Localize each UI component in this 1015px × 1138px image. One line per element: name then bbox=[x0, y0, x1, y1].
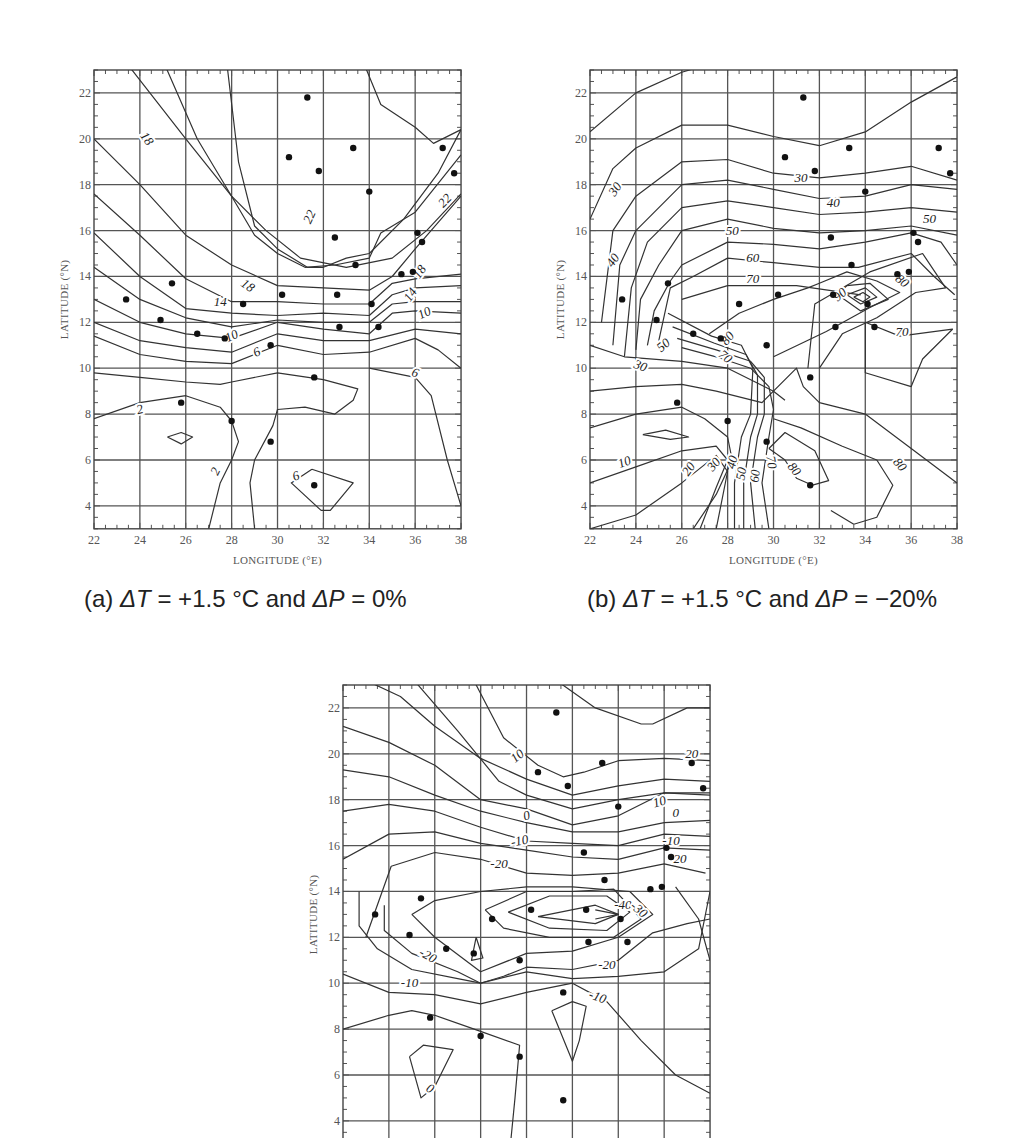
y-tick-label: 10 bbox=[328, 976, 340, 990]
station-dot bbox=[427, 1014, 433, 1020]
contour-label: 20 bbox=[685, 746, 699, 761]
contour-label: 0 bbox=[521, 807, 532, 823]
station-dot bbox=[668, 854, 674, 860]
station-dot bbox=[617, 916, 623, 922]
contour-line bbox=[552, 1002, 586, 1062]
station-dot bbox=[560, 1097, 566, 1103]
station-dot bbox=[516, 957, 522, 963]
station-dot bbox=[418, 895, 424, 901]
station-dot bbox=[647, 886, 653, 892]
station-dot bbox=[528, 907, 534, 913]
station-dot bbox=[477, 1033, 483, 1039]
contour-line bbox=[474, 680, 710, 776]
y-tick-label: 16 bbox=[328, 839, 340, 853]
station-dot bbox=[553, 709, 559, 715]
y-tick-label: 6 bbox=[334, 1068, 340, 1082]
station-dot bbox=[560, 989, 566, 995]
station-dot bbox=[624, 939, 630, 945]
station-dot bbox=[471, 950, 477, 956]
contour-label: 10 bbox=[507, 745, 527, 765]
contour-label: -10 bbox=[510, 832, 530, 850]
station-dot bbox=[372, 911, 378, 917]
y-axis-label: LATITUDE (°N) bbox=[307, 875, 320, 955]
panel-c: 46810121416182022LATITUDE (°N)10200100-1… bbox=[0, 0, 1015, 1138]
contour-label: 0 bbox=[672, 805, 679, 820]
y-tick-label: 20 bbox=[328, 747, 340, 761]
contour-line bbox=[366, 853, 706, 938]
station-dot bbox=[688, 760, 694, 766]
station-dot bbox=[489, 916, 495, 922]
station-dot bbox=[565, 783, 571, 789]
station-dot bbox=[535, 769, 541, 775]
station-dot bbox=[585, 939, 591, 945]
station-dot bbox=[659, 884, 665, 890]
contour-line bbox=[538, 905, 618, 923]
station-dot bbox=[583, 907, 589, 913]
contour-plot-c: 46810121416182022LATITUDE (°N)10200100-1… bbox=[0, 0, 1015, 1138]
station-dot bbox=[615, 803, 621, 809]
contour-label: -10 bbox=[587, 987, 609, 1007]
y-tick-label: 18 bbox=[328, 793, 340, 807]
station-dot bbox=[601, 877, 607, 883]
contour-label: -20 bbox=[490, 856, 508, 871]
y-tick-label: 8 bbox=[334, 1022, 340, 1036]
station-dot bbox=[663, 845, 669, 851]
station-dot bbox=[516, 1053, 522, 1059]
contour-line bbox=[414, 680, 710, 809]
y-tick-label: 22 bbox=[328, 701, 340, 715]
contour-label: -10 bbox=[401, 975, 419, 990]
contour-line bbox=[366, 680, 710, 795]
contour-labels: 10200100-10-10-20-20-40-30-20-20-10-100 bbox=[401, 745, 699, 1096]
contour-label: 10 bbox=[651, 792, 668, 810]
y-tick-label: 4 bbox=[334, 1114, 340, 1128]
station-dot bbox=[581, 849, 587, 855]
y-tick-label: 12 bbox=[328, 930, 340, 944]
station-dot bbox=[700, 785, 706, 791]
station-dot bbox=[443, 946, 449, 952]
contour-line bbox=[676, 887, 710, 960]
y-tick-label: 14 bbox=[328, 884, 340, 898]
station-markers bbox=[372, 709, 706, 1103]
contour-label: -20 bbox=[598, 957, 616, 972]
station-dot bbox=[599, 760, 605, 766]
station-dot bbox=[406, 932, 412, 938]
